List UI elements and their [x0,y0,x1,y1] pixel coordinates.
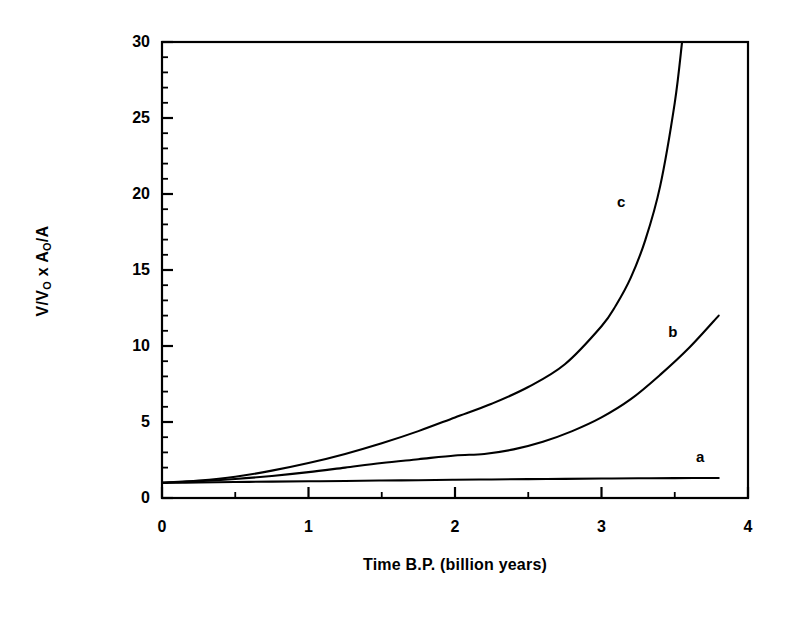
y-axis-title-text: V/VO x AO/A [34,226,51,317]
series-label-b: b [668,324,677,339]
data-curves [162,42,719,483]
series-label-a: a [696,449,704,464]
x-tick-label: 1 [289,519,329,535]
x-tick-label: 2 [435,519,475,535]
x-tick-label: 0 [142,519,182,535]
x-axis-title: Time B.P. (billion years) [162,556,748,574]
curve-b [162,316,719,483]
major-ticks [162,42,748,498]
axes-frame [162,42,748,498]
y-tick-label: 15 [104,262,150,278]
y-tick-label: 10 [104,338,150,354]
y-tick-label: 20 [104,186,150,202]
chart-figure: V/VO x AO/A 051015202530 01234 abc Time … [0,0,792,624]
y-axis-title: V/VO x AO/A [30,121,56,421]
y-tick-label: 0 [104,490,150,506]
y-tick-label: 25 [104,110,150,126]
y-tick-label: 5 [104,414,150,430]
x-tick-label: 3 [582,519,622,535]
x-tick-label: 4 [728,519,768,535]
y-tick-label: 30 [104,34,150,50]
series-label-c: c [617,194,625,209]
plot-area [0,0,792,624]
